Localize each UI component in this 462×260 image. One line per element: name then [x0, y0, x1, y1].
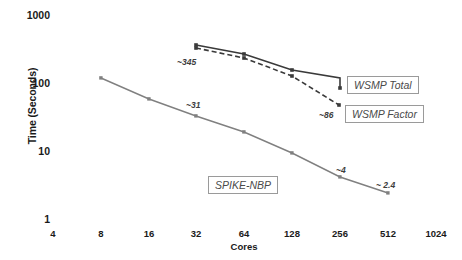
- chart-container: Time (Seconds) 1000 100 10 1 4 8 16 32 6…: [0, 0, 462, 260]
- series-line-wsmp-factor: [196, 48, 339, 105]
- annotation-86: ~86: [319, 110, 333, 120]
- series-markers-wsmp-factor: [194, 46, 341, 107]
- legend-spike-nbp[interactable]: SPIKE-NBP: [208, 176, 278, 194]
- annotation-31: ~31: [186, 100, 200, 110]
- plot-area: [0, 0, 462, 260]
- annotation-2-4: ~ 2.4: [376, 180, 395, 190]
- annotation-345: ~345: [177, 57, 196, 67]
- legend-wsmp-total[interactable]: WSMP Total: [347, 76, 419, 94]
- legend-wsmp-factor[interactable]: WSMP Factor: [345, 105, 424, 123]
- annotation-4: ~4: [336, 165, 346, 175]
